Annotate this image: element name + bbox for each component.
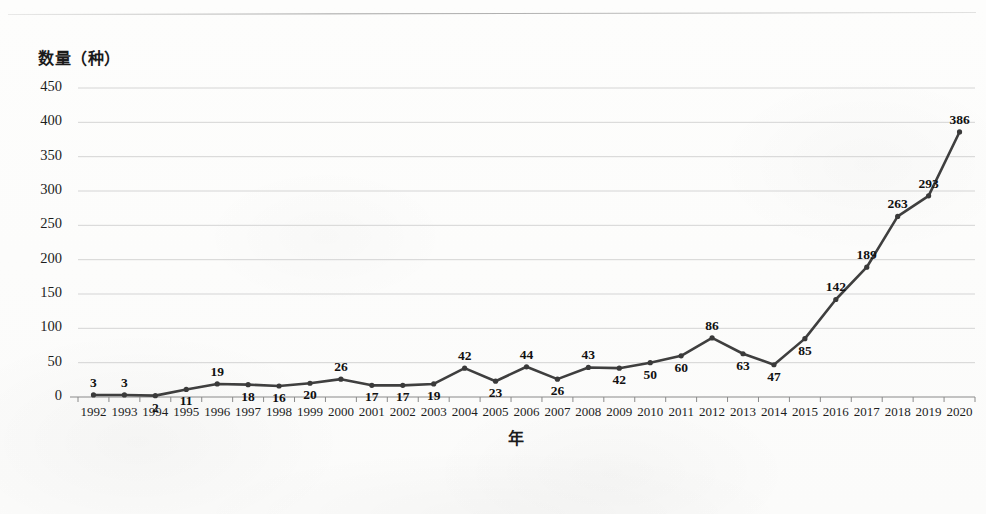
data-point xyxy=(555,377,560,382)
data-label: 293 xyxy=(911,176,947,192)
data-point xyxy=(493,379,498,384)
data-label: 44 xyxy=(509,347,545,363)
data-point xyxy=(215,381,220,386)
data-point xyxy=(679,353,684,358)
data-label: 26 xyxy=(539,383,575,399)
data-point xyxy=(709,335,714,340)
data-point xyxy=(400,383,405,388)
plot-area xyxy=(0,0,986,514)
data-point xyxy=(307,381,312,386)
data-point xyxy=(338,377,343,382)
data-label: 23 xyxy=(478,385,514,401)
data-point xyxy=(895,214,900,219)
data-point xyxy=(586,365,591,370)
data-label: 386 xyxy=(942,112,978,128)
data-point xyxy=(369,383,374,388)
data-point xyxy=(833,297,838,302)
data-label: 42 xyxy=(447,348,483,364)
data-point xyxy=(957,129,962,134)
data-point xyxy=(122,392,127,397)
data-point xyxy=(771,362,776,367)
data-point xyxy=(802,336,807,341)
data-point xyxy=(864,265,869,270)
data-point xyxy=(740,351,745,356)
data-point xyxy=(276,383,281,388)
data-point xyxy=(524,364,529,369)
data-point xyxy=(246,382,251,387)
data-label: 47 xyxy=(756,369,792,385)
data-point xyxy=(462,366,467,371)
data-label: 189 xyxy=(849,247,885,263)
data-point xyxy=(153,393,158,398)
data-point xyxy=(91,392,96,397)
data-label: 43 xyxy=(570,347,606,363)
data-point xyxy=(431,381,436,386)
data-label: 19 xyxy=(199,364,235,380)
data-label: 19 xyxy=(416,388,452,404)
data-point xyxy=(184,387,189,392)
data-point xyxy=(926,193,931,198)
data-label: 60 xyxy=(663,360,699,376)
data-point xyxy=(617,366,622,371)
data-label: 20 xyxy=(292,387,328,403)
data-label: 142 xyxy=(818,279,854,295)
data-label: 263 xyxy=(880,196,916,212)
data-point xyxy=(648,360,653,365)
line-chart: 数量（种） 年 050100150200250300350400450 1992… xyxy=(0,0,986,514)
data-label: 3 xyxy=(106,375,142,391)
data-label: 26 xyxy=(323,359,359,375)
data-label: 86 xyxy=(694,318,730,334)
data-label: 85 xyxy=(787,343,823,359)
data-label: 11 xyxy=(168,393,204,409)
